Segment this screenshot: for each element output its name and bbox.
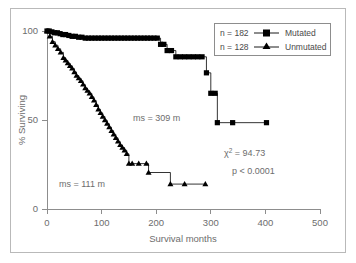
median-unmutated-label: ms = 111 m [59, 179, 105, 189]
chi-value: = 94.73 [232, 148, 265, 158]
legend-n-unmutated: n = 128 [220, 42, 249, 52]
plot-area: 100 50 0 0 100 200 300 400 500 Survival [11, 9, 347, 254]
survival-chart: 100 50 0 0 100 200 300 400 500 Survival [11, 9, 347, 254]
marker-triangle-icon [167, 181, 173, 186]
marker-triangle-icon [136, 161, 142, 166]
marker-square-icon [213, 91, 218, 96]
y-axis-title: % Surviving [16, 95, 27, 145]
figure-frame: 100 50 0 0 100 200 300 400 500 Survival [10, 8, 346, 253]
legend-label-mutated: Mutated [285, 28, 316, 38]
marker-triangle-icon [143, 161, 149, 166]
x-axis-title: Survival months [149, 233, 217, 244]
marker-square-icon [215, 120, 220, 125]
x-tick-label-400: 400 [257, 217, 273, 228]
x-tick-label-200: 200 [148, 217, 164, 228]
marker-square-icon [169, 48, 174, 53]
marker-square-icon [264, 120, 269, 125]
legend-label-unmutated: Unmutated [285, 42, 327, 52]
x-tick-label-300: 300 [203, 217, 219, 228]
km-curve-unmutated [47, 31, 205, 184]
marker-triangle-icon [202, 181, 208, 186]
marker-square-icon [161, 42, 166, 47]
legend-n-mutated: n = 182 [220, 28, 249, 38]
median-mutated-label: ms = 309 m [133, 113, 180, 123]
legend-marker-square-icon [263, 30, 270, 37]
p-value-annotation: p < 0.0001 [232, 166, 275, 176]
x-tick-group: 0 100 200 300 400 500 [44, 209, 328, 228]
x-tick-label-500: 500 [312, 217, 328, 228]
x-tick-label-100: 100 [94, 217, 110, 228]
marker-square-icon [230, 120, 235, 125]
y-tick-label-0: 0 [33, 203, 38, 214]
y-tick-label-50: 50 [27, 114, 38, 125]
y-tick-label-100: 100 [22, 25, 38, 36]
legend: n = 182 Mutated n = 128 Unmutated [214, 23, 330, 55]
series-unmutated [44, 28, 208, 186]
marker-triangle-icon [182, 181, 188, 186]
chi-square-annotation: χ2 = 94.73 [224, 147, 265, 158]
x-tick-label-0: 0 [44, 217, 49, 228]
marker-square-icon [155, 36, 160, 41]
marker-square-icon [199, 54, 204, 59]
marker-square-icon [204, 70, 209, 75]
